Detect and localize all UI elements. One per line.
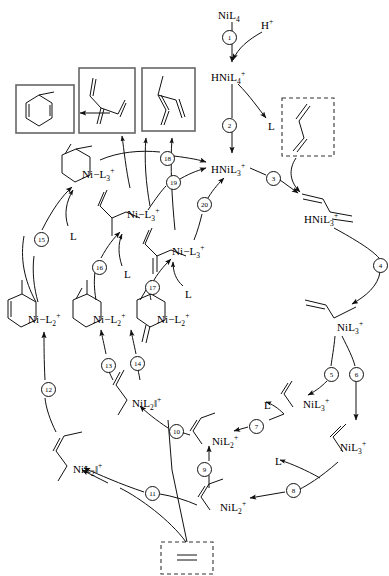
line-hnil3-to-step3 — [250, 168, 266, 175]
step-marker-13[interactable]: 13 — [101, 358, 116, 373]
structure-allyl-nil2bar-1 — [113, 370, 127, 415]
species-label-nil2p-l1: NiL2‖+ — [132, 396, 161, 411]
species-label-nil2p-l2: NiL2‖+ — [73, 462, 102, 477]
step-marker-15[interactable]: 15 — [34, 232, 49, 247]
species-label-nil4: NiL4 — [218, 10, 240, 24]
structure-branched-diene — [90, 78, 126, 124]
species-label-nil3p-r3: NiL3+ — [340, 440, 366, 455]
reaction-scheme-canvas: NiL4H+HNiL4+LHNiL3+HNiL3+NiL3+NiL3+NiL3+… — [0, 0, 389, 576]
species-label-ni-l2p-1: Ni−L2+ — [28, 312, 61, 327]
species-label-hplus: H+ — [261, 18, 273, 31]
step-marker-18[interactable]: 18 — [160, 151, 175, 166]
step-marker-17[interactable]: 17 — [145, 280, 160, 295]
species-label-hnil3p-c: HNiL3+ — [211, 162, 245, 177]
curve-l-in-17 — [173, 262, 183, 286]
step-marker-14[interactable]: 14 — [130, 356, 145, 371]
step-marker-9[interactable]: 9 — [197, 462, 212, 477]
species-label-hnil4p: HNiL4+ — [211, 70, 245, 85]
step-marker-4[interactable]: 4 — [373, 258, 388, 273]
species-label-ni-l2p-2: Ni−L2+ — [93, 312, 126, 327]
product-box-methyl-diene — [142, 68, 195, 131]
step-marker-1[interactable]: 1 — [222, 30, 237, 45]
step-marker-8[interactable]: 8 — [286, 483, 301, 498]
ligand-label-l-7: L — [264, 399, 271, 411]
species-label-l-top: L — [268, 121, 275, 132]
species-label-ni-l3p-2: Ni−L3+ — [127, 207, 160, 222]
step-marker-12[interactable]: 12 — [41, 382, 56, 397]
ligand-label-l-16: L — [124, 268, 131, 280]
step-marker-19[interactable]: 19 — [166, 175, 181, 190]
step-marker-6[interactable]: 6 — [349, 367, 364, 382]
step-marker-5[interactable]: 5 — [324, 367, 339, 382]
arrow-step-18 — [100, 151, 206, 162]
curve-l-out-top — [238, 84, 266, 118]
arc-left-outer — [23, 236, 37, 302]
species-label-nil2p-b1: NiL2+ — [212, 434, 238, 449]
product-box-cyclohexadiene — [16, 85, 74, 133]
step-marker-11[interactable]: 11 — [145, 486, 160, 501]
product-box-branched-diene — [79, 68, 135, 133]
curve-l-in-15 — [66, 190, 73, 226]
species-label-ni-l3p-1: Ni−L3+ — [82, 167, 115, 182]
species-label-nil2p-b2: NiL2+ — [220, 500, 246, 515]
step-marker-3[interactable]: 3 — [266, 171, 281, 186]
curve-h-plus-in — [233, 32, 262, 60]
arrow-step-14 — [131, 330, 140, 380]
step-marker-16[interactable]: 16 — [92, 260, 107, 275]
curve-product-release-18 — [122, 136, 130, 188]
species-label-ni-l3p-3: Ni−L3+ — [172, 244, 205, 259]
curve-l-in-16 — [119, 234, 122, 266]
species-label-nil3p-r1: NiL3+ — [337, 320, 363, 335]
step-marker-2[interactable]: 2 — [222, 118, 237, 133]
reactant-box-butadiene — [282, 98, 334, 156]
scheme-vector-layer — [0, 0, 389, 576]
structure-allyl-right-1 — [305, 300, 356, 318]
ligand-label-l-17: L — [185, 288, 192, 300]
curve-butadiene-in — [291, 158, 300, 192]
step-marker-20[interactable]: 20 — [197, 197, 212, 212]
ligand-label-l-8: L — [275, 455, 282, 467]
arrow-step-5 — [308, 336, 335, 395]
species-label-ni-l2p-3: Ni−L2+ — [157, 312, 190, 327]
step-marker-7[interactable]: 7 — [249, 419, 264, 434]
structure-methyl-diene — [158, 76, 185, 125]
structure-cyclohexadiene — [26, 92, 54, 126]
reactant-box-ethylene — [161, 542, 213, 574]
arrow-step-11b — [82, 470, 186, 542]
step-marker-10[interactable]: 10 — [169, 424, 184, 439]
species-label-nil3p-r2: NiL3+ — [303, 397, 329, 412]
curve-l-out-8 — [280, 460, 320, 478]
curve-product-release-19 — [145, 138, 150, 206]
species-label-hnil3p-r: HNiL3+ — [304, 212, 338, 227]
ligand-label-l-15: L — [70, 230, 77, 242]
structure-allyl-right-2 — [281, 381, 293, 407]
structure-ethylene — [177, 555, 197, 560]
structure-butadiene — [293, 104, 310, 152]
